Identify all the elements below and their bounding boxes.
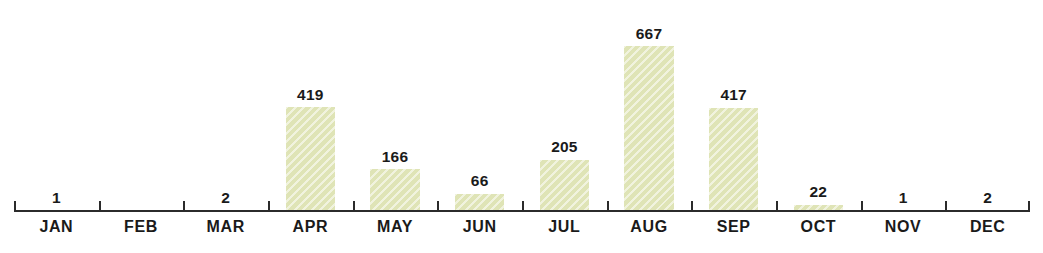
axis-tick: [945, 201, 947, 210]
axis-tick: [14, 201, 16, 210]
axis-tick: [99, 201, 101, 210]
x-label-jun: JUN: [437, 214, 522, 240]
x-label-feb: FEB: [99, 214, 184, 240]
bar-chart: 1 2 419 166 66 205 667: [0, 0, 1043, 253]
axis-tick: [183, 201, 185, 210]
axis-tick: [776, 201, 778, 210]
axis-tick: [691, 201, 693, 210]
x-label-jan: JAN: [14, 214, 99, 240]
axis-tick: [607, 201, 609, 210]
axis-tick: [353, 201, 355, 210]
x-axis-line: [14, 210, 1030, 212]
axis-tick: [861, 201, 863, 210]
x-axis-labels: JAN FEB MAR APR MAY JUN JUL AUG SEP OCT …: [14, 214, 1030, 240]
x-label-mar: MAR: [183, 214, 268, 240]
x-label-sep: SEP: [691, 214, 776, 240]
x-label-may: MAY: [353, 214, 438, 240]
axis-tick: [268, 201, 270, 210]
x-label-apr: APR: [268, 214, 353, 240]
axis-tick: [437, 201, 439, 210]
x-label-aug: AUG: [607, 214, 692, 240]
axis-tick: [1028, 201, 1030, 210]
x-axis-ticks: [14, 0, 1030, 210]
x-label-jul: JUL: [522, 214, 607, 240]
x-label-nov: NOV: [861, 214, 946, 240]
axis-tick: [522, 201, 524, 210]
x-label-dec: DEC: [945, 214, 1030, 240]
x-label-oct: OCT: [776, 214, 861, 240]
